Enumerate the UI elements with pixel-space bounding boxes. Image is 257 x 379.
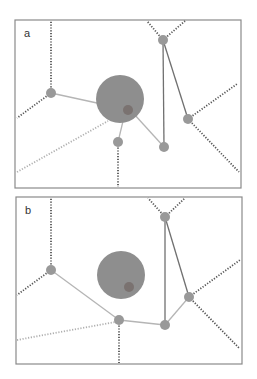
node-left — [46, 265, 56, 275]
node-lower-mid — [114, 315, 124, 325]
node-lower-mid — [113, 137, 123, 147]
diagram-canvas: a b — [0, 0, 257, 379]
node-right — [184, 292, 194, 302]
node-top — [160, 212, 170, 222]
node-bottom-right — [159, 142, 169, 152]
panel-label: b — [25, 204, 31, 216]
node-bottom-right — [160, 320, 170, 330]
node-left — [46, 88, 56, 98]
panel-label: a — [24, 27, 31, 39]
large-circle — [96, 75, 144, 123]
panel-b: b — [16, 197, 242, 364]
node-top — [158, 35, 168, 45]
small-circle — [124, 282, 134, 292]
panel-a: a — [15, 20, 241, 188]
small-circle — [123, 105, 133, 115]
node-right — [183, 114, 193, 124]
large-circle — [97, 251, 145, 299]
